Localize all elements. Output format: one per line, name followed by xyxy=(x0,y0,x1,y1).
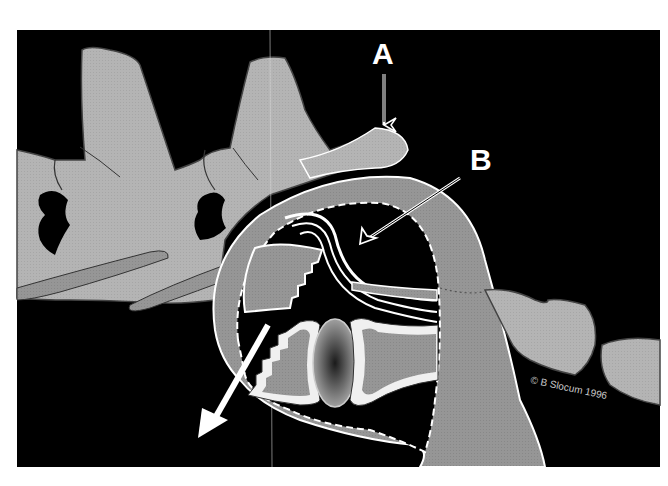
label-a: A xyxy=(372,37,394,70)
anatomy-diagram: A B © B Slocum 1996 xyxy=(0,0,668,486)
intervertebral-disc xyxy=(313,319,357,407)
label-b: B xyxy=(470,143,492,176)
